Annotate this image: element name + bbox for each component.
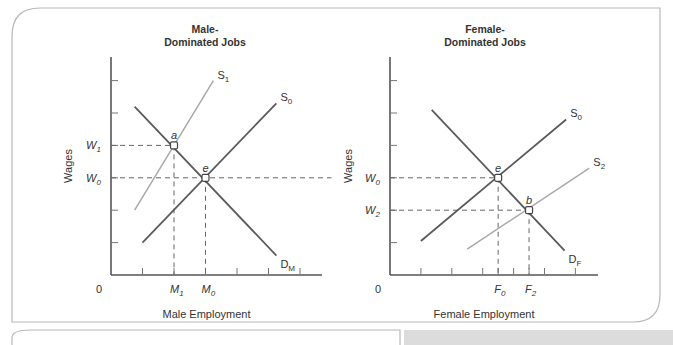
chart-title-line: Dominated Jobs	[164, 36, 246, 48]
point-e	[495, 174, 502, 181]
curve-label-s-1: S1	[217, 69, 229, 84]
y-tick-label: W2	[365, 204, 380, 219]
chart-title-line: Dominated Jobs	[444, 36, 526, 48]
x-axis-label: Female Employment	[434, 308, 535, 320]
point-label-e: e	[495, 162, 501, 174]
point-a	[171, 142, 178, 149]
curve-label-s-0: S0	[280, 91, 292, 106]
next-panel-frame	[12, 330, 400, 345]
y-axis-label: Wages	[62, 149, 74, 183]
x-tick-label: M0	[202, 283, 216, 298]
x-tick-label: F0	[494, 283, 506, 298]
y-tick-label: W1	[86, 139, 101, 154]
curve-s-0	[143, 103, 277, 242]
next-panel-band	[404, 330, 673, 345]
curve-label-d-f: DF	[569, 253, 582, 268]
point-e	[202, 174, 209, 181]
panel-female-dominated: Female-Dominated Jobs0Female EmploymentW…	[342, 23, 606, 320]
chart-title-line: Male-	[192, 23, 219, 35]
curve-s-0	[421, 119, 566, 240]
point-label-a: a	[171, 129, 177, 141]
panel-male-dominated: Male-Dominated Jobs0Male EmploymentWages…	[62, 23, 332, 320]
x-tick-label: M1	[170, 283, 184, 298]
point-label-e: e	[202, 162, 208, 174]
y-tick-label: W0	[86, 172, 101, 187]
point-b	[526, 207, 533, 214]
curve-label-s-0: S0	[570, 107, 582, 122]
x-tick-label: F2	[525, 283, 537, 298]
origin-label: 0	[375, 283, 381, 295]
curve-label-d-m: DM	[280, 258, 295, 273]
chart-title-line: Female-	[465, 23, 505, 35]
x-axis-label: Male Employment	[162, 308, 250, 320]
point-label-b: b	[526, 194, 532, 206]
figure: Male-Dominated Jobs0Male EmploymentWages…	[0, 0, 673, 345]
origin-label: 0	[96, 283, 102, 295]
y-axis-label: Wages	[342, 149, 354, 183]
curve-label-s-2: S2	[593, 156, 605, 171]
y-tick-label: W0	[365, 172, 380, 187]
